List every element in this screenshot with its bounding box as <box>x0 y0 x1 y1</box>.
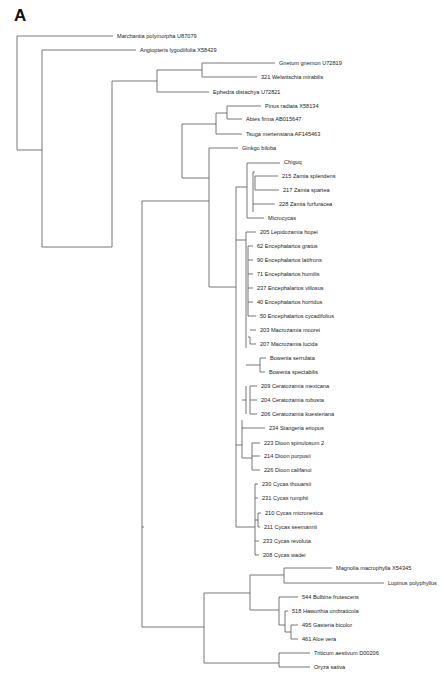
tree-branch <box>42 50 112 247</box>
taxon-label-ginkgo: Ginkgo biloba <box>242 145 277 151</box>
taxon-label-angiopteris: Angiopteris lygodiifolia X58429 <box>140 47 217 53</box>
taxon-label-chiguq: Chiguq <box>284 159 302 165</box>
taxon-label-marchantia: Marchantia polymorpha U87079 <box>117 33 197 39</box>
taxon-label-lupinus: Lupinus polyphyllus <box>388 580 437 586</box>
taxon-label-m203: 203 Macrozamia moorei <box>260 327 320 333</box>
taxon-label-e50: 50 Encephalartos cycadifolius <box>260 313 334 319</box>
taxon-label-bspec: Bowenia spectabilis <box>269 369 318 375</box>
taxon-label-bserr: Bowenia serrulata <box>270 355 316 361</box>
taxon-label-c206: 206 Ceratozamia kuesteriana <box>261 411 335 417</box>
taxon-label-cy210: 210 Cycas micronesica <box>265 510 324 516</box>
taxon-label-welwitschia: 321 Welwitschia mirabilis <box>261 74 324 80</box>
taxon-label-ephedra: Ephedra distachya U72821 <box>213 89 280 95</box>
taxon-label-cy231: 231 Cycas rumphii <box>262 495 308 501</box>
taxon-label-aloe: 461 Aloe vera <box>302 636 337 642</box>
taxon-label-tsuga: Tsuga mertensiana AF145463 <box>246 131 320 137</box>
taxon-label-oryza: Oryza sativa <box>314 664 346 670</box>
taxon-label-cy233: 233 Cycas revoluta <box>263 538 312 544</box>
taxon-label-gnetum: Gnetum gnemon U72819 <box>279 60 342 66</box>
taxon-label-c204: 204 Ceratozamia robusta <box>261 397 325 403</box>
taxon-label-z217: 217 Zamia spartea <box>283 187 331 193</box>
taxon-label-d223: 223 Dioon spinulosum 2 <box>264 440 324 446</box>
taxon-label-gasteria: 495 Gasteria bicolor <box>302 622 352 628</box>
taxon-label-microcycas: Microcycas <box>268 215 296 221</box>
taxon-label-z215: 215 Zamia splendens <box>282 173 336 179</box>
taxon-label-e62: 62 Encephalartos gratus <box>257 243 318 249</box>
taxon-label-cy211: 211 Cycas seemannii <box>264 524 317 530</box>
tree-branches <box>17 36 384 667</box>
taxon-label-e40: 40 Encephalartos horridus <box>257 299 323 305</box>
taxon-label-l205: 205 Lepidozamia hopei <box>260 229 318 235</box>
taxon-label-haworthia: 518 Haworthia umbraticola <box>292 608 359 614</box>
taxon-label-e71: 71 Encephalartos humilis <box>257 271 320 277</box>
taxon-label-bulbine: 544 Bulbine frutescens <box>302 594 359 600</box>
taxon-label-c209: 209 Ceratozamia mexicana <box>261 383 330 389</box>
taxon-label-z228: 228 Zamia furfuracea <box>279 201 333 207</box>
taxon-label-magnolia: Magnolia macrophylla X54345 <box>336 565 411 571</box>
taxon-label-abies: Abies firma AB015647 <box>246 116 301 122</box>
taxon-label-d226: 226 Dioon califanoi <box>264 467 312 473</box>
phylogenetic-tree: Marchantia polymorpha U87079Angiopteris … <box>0 0 445 685</box>
taxon-label-d214: 214 Dioon purpusii <box>264 453 311 459</box>
taxon-label-cy208: 208 Cycas wadei <box>263 552 306 558</box>
taxon-label-pinus: Pinus radiata X58134 <box>265 103 319 109</box>
taxon-label-e237: 237 Encephalartos villosus <box>257 285 324 291</box>
taxon-labels: Marchantia polymorpha U87079Angiopteris … <box>117 33 437 670</box>
taxon-label-s234: 234 Stangeria eriopus <box>269 425 324 431</box>
tree-branch <box>17 36 42 150</box>
taxon-label-e90: 90 Encephalartos latifrons <box>257 257 322 263</box>
taxon-label-m207: 207 Macrozamia lucida <box>260 341 318 347</box>
taxon-label-cy230: 230 Cycas thouarsii <box>262 481 311 487</box>
tree-branch <box>142 527 204 627</box>
taxon-label-triticum: Triticum aestivum D00206 <box>314 650 379 656</box>
